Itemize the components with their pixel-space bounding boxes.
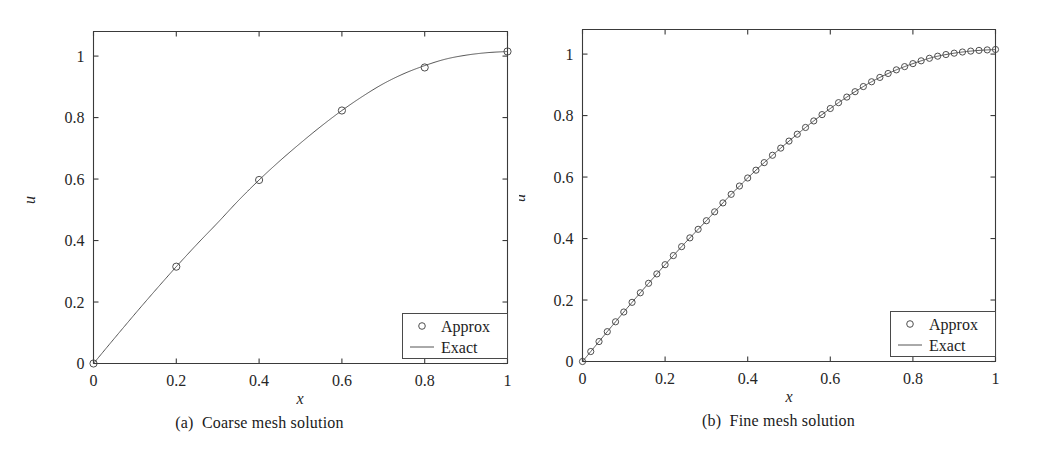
y-axis-title-b: u [519, 194, 528, 202]
y-tick-label-2: 0.4 [554, 230, 574, 247]
y-tick-label-4: 0.8 [554, 107, 574, 124]
legend-b: Approx Exact [891, 312, 996, 357]
y-tick-label-4: 0.8 [65, 109, 85, 126]
legend-a: Approx Exact [403, 314, 508, 359]
legend-approx-label-a: Approx [441, 318, 490, 336]
x-tick-label-1: 0.2 [655, 370, 675, 387]
y-axis-title-a: u [21, 196, 38, 204]
y-tick-label-5: 1 [566, 46, 574, 63]
x-tick-label-2: 0.4 [738, 370, 758, 387]
x-axis-title-a: x [295, 390, 303, 407]
y-tick-label-1: 0.2 [554, 292, 574, 309]
legend-exact-label-a: Exact [441, 339, 478, 356]
x-tick-label-2: 0.4 [249, 372, 269, 389]
x-axis-title-b: x [784, 388, 792, 405]
legend-exact-label-b: Exact [929, 337, 966, 354]
x-tick-label-1: 0.2 [166, 372, 186, 389]
figure-row: 00.20.40.60.81 00.20.40.60.81 Approx Exa… [0, 0, 1038, 451]
x-tick-labels-b: 00.20.40.60.81 [579, 370, 1000, 387]
x-tick-label-0: 0 [579, 370, 587, 387]
y-tick-labels-a: 00.20.40.60.81 [65, 48, 85, 372]
y-tick-label-3: 0.6 [65, 171, 85, 188]
y-tick-label-2: 0.4 [65, 232, 85, 249]
caption-b: (b) Fine mesh solution [519, 412, 1038, 430]
x-tick-labels-a: 00.20.40.60.81 [90, 372, 512, 389]
x-tick-label-3: 0.6 [820, 370, 840, 387]
y-tick-label-0: 0 [566, 353, 574, 370]
y-tick-label-1: 0.2 [65, 294, 85, 311]
x-tick-label-5: 1 [992, 370, 1000, 387]
y-tick-label-5: 1 [77, 48, 85, 65]
approx-marker-point-4 [421, 64, 428, 71]
x-tick-label-0: 0 [90, 372, 98, 389]
legend-approx-label-b: Approx [929, 316, 978, 334]
subfigure-b: 00.20.40.60.81 00.20.40.60.81 Approx Exa… [519, 0, 1038, 451]
x-tick-label-5: 1 [504, 372, 512, 389]
x-tick-label-4: 0.8 [903, 370, 923, 387]
subfigure-a: 00.20.40.60.81 00.20.40.60.81 Approx Exa… [0, 0, 519, 451]
caption-a: (a) Coarse mesh solution [0, 414, 519, 432]
y-tick-labels-b: 00.20.40.60.81 [554, 46, 574, 370]
plot-b: 00.20.40.60.81 00.20.40.60.81 Approx Exa… [519, 0, 1038, 451]
y-tick-label-0: 0 [77, 355, 85, 372]
plot-a: 00.20.40.60.81 00.20.40.60.81 Approx Exa… [0, 0, 519, 451]
y-tick-label-3: 0.6 [554, 169, 574, 186]
x-tick-label-3: 0.6 [332, 372, 352, 389]
x-tick-label-4: 0.8 [415, 372, 435, 389]
